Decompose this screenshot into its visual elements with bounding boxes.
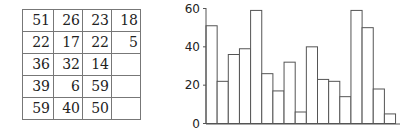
bar [273, 91, 284, 124]
bar [228, 55, 239, 124]
y-tick-label: 20 [185, 78, 200, 92]
table-cell: 32 [54, 54, 83, 76]
y-tick-label: 0 [192, 117, 200, 131]
bar [206, 26, 217, 124]
table-cell: 39 [23, 76, 54, 98]
table-cell: 22 [23, 32, 54, 54]
table-cell: 22 [83, 32, 112, 54]
table-cell: 6 [54, 76, 83, 98]
bar [329, 81, 340, 123]
bar [295, 112, 306, 124]
table-cell [112, 76, 141, 98]
table-cell [112, 54, 141, 76]
table-row: 51262318 [23, 10, 141, 32]
bar [284, 62, 295, 123]
table-row: 363214 [23, 54, 141, 76]
bars [206, 10, 396, 123]
bar [351, 10, 362, 123]
table-cell: 18 [112, 10, 141, 32]
table-cell: 59 [23, 98, 54, 120]
table-cell: 14 [83, 54, 112, 76]
bar [239, 49, 250, 124]
bar [384, 114, 395, 124]
table-cell: 59 [83, 76, 112, 98]
y-ticks: 0204060 [185, 2, 206, 131]
bar [306, 47, 317, 124]
bar [373, 89, 384, 124]
table-cell: 5 [112, 32, 141, 54]
table-cell: 36 [23, 54, 54, 76]
data-table: 51262318221722536321439659594050 [22, 9, 141, 120]
table-row: 39659 [23, 76, 141, 98]
bar [251, 10, 262, 123]
bar [262, 74, 273, 124]
y-tick-label: 60 [185, 2, 200, 16]
table-row: 594050 [23, 98, 141, 120]
table-cell: 51 [23, 10, 54, 32]
table-cell: 40 [54, 98, 83, 120]
table-cell: 50 [83, 98, 112, 120]
table-cell: 26 [54, 10, 83, 32]
bar [217, 81, 228, 123]
bar [340, 97, 351, 124]
table-cell: 23 [83, 10, 112, 32]
bar-chart: 0204060 [160, 0, 413, 136]
bar [362, 28, 373, 124]
table-cell [112, 98, 141, 120]
table-cell: 17 [54, 32, 83, 54]
y-tick-label: 40 [185, 40, 200, 54]
table-row: 2217225 [23, 32, 141, 54]
bar [318, 79, 329, 123]
